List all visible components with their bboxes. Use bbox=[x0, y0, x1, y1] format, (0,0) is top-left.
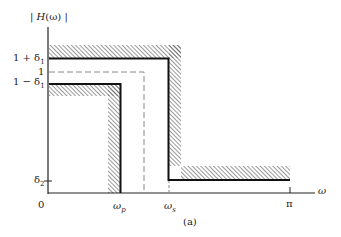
stopband-hatch bbox=[181, 166, 290, 179]
tick-ws: ωs bbox=[164, 200, 176, 214]
upper-bound-line bbox=[49, 59, 290, 181]
tick-delta2: δ2 bbox=[34, 174, 45, 188]
tick-wp: ωp bbox=[113, 200, 126, 214]
tick-1-minus-delta1: 1 − δ1 bbox=[13, 76, 45, 90]
caption: (a) bbox=[183, 216, 197, 227]
lower-tolerance-hatch bbox=[49, 84, 120, 193]
x-axis-label: ω bbox=[318, 185, 326, 196]
tick-pi: π bbox=[286, 198, 293, 209]
y-axis-label: | H(ω) | bbox=[30, 11, 68, 22]
tick-0: 0 bbox=[38, 199, 44, 210]
tick-1-plus-delta1: 1 + δ1 bbox=[13, 52, 45, 66]
